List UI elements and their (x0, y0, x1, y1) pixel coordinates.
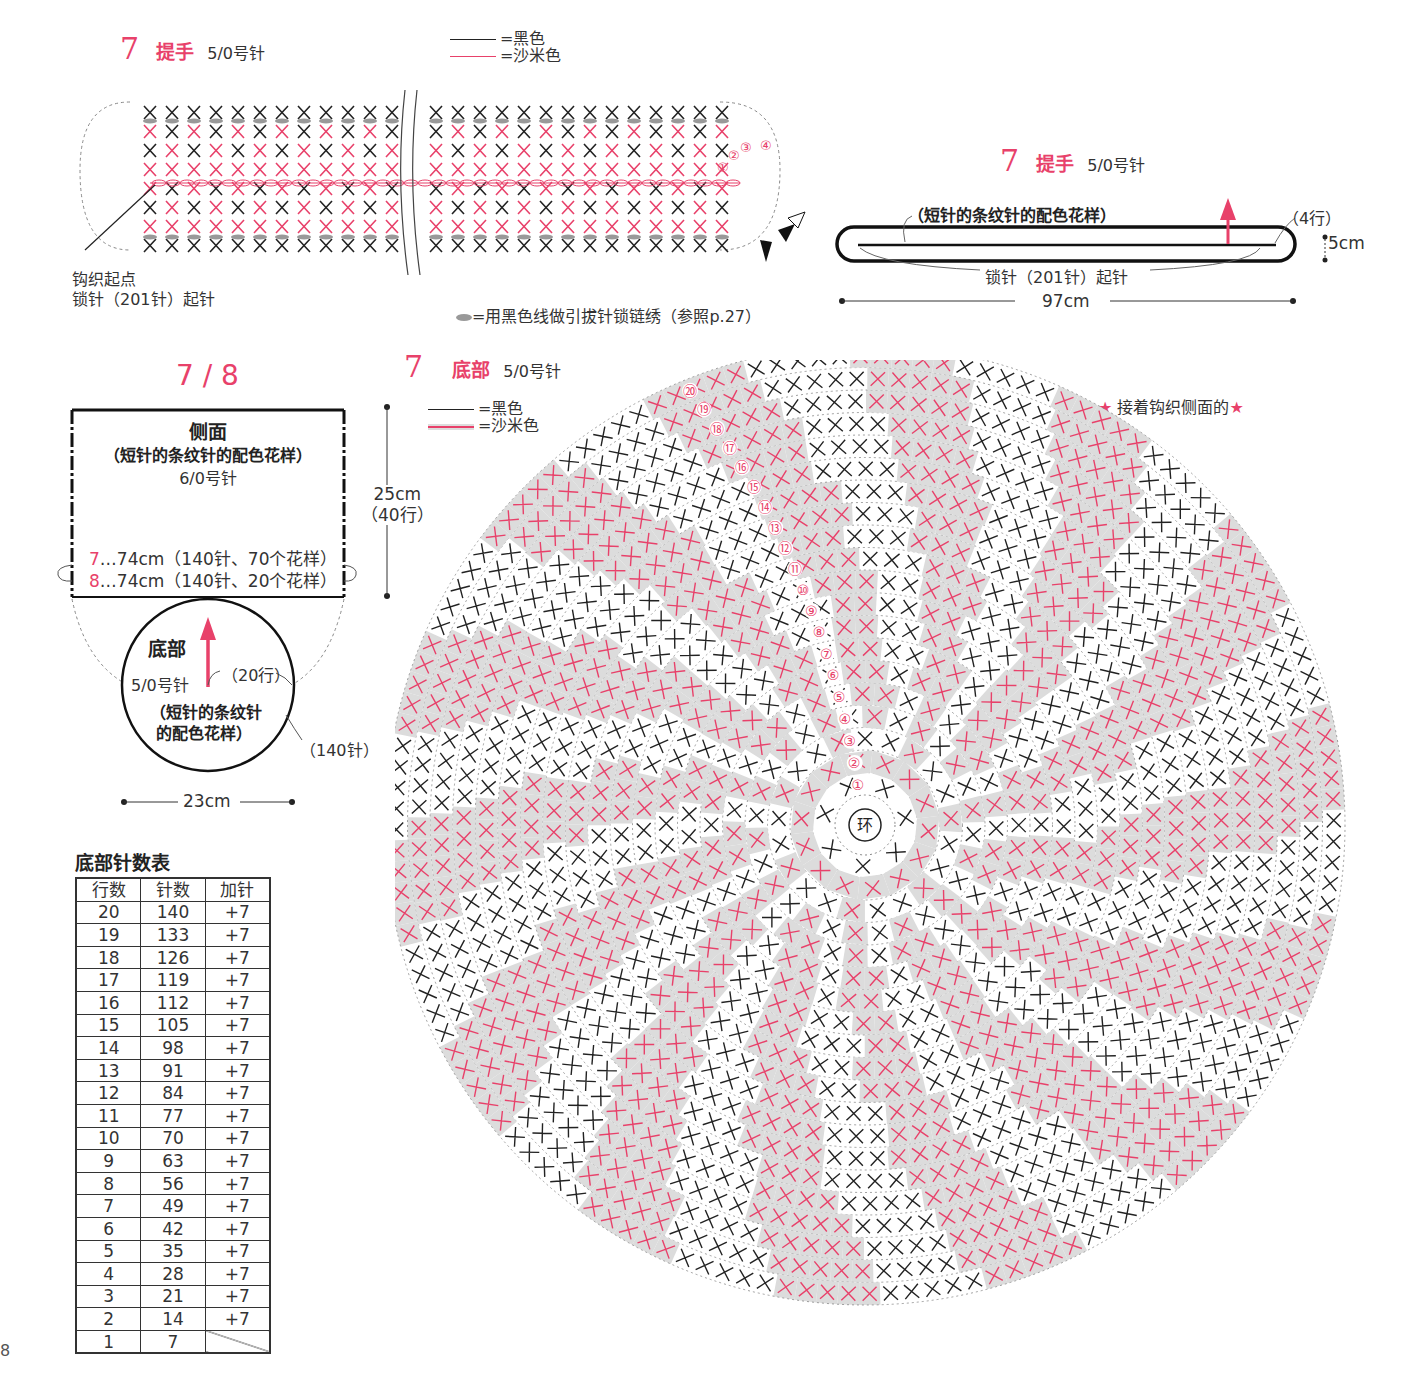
svg-text:⑨: ⑨ (805, 603, 818, 619)
table-row: 749+7 (76, 1195, 270, 1218)
svg-text:④: ④ (760, 138, 772, 153)
table-cell: 84 (141, 1082, 205, 1105)
bottom-pattern: （短针的条纹针 的配色花样） (150, 702, 262, 744)
side-schematic-number: 7 / 8 (176, 362, 239, 390)
table-cell: 2 (76, 1308, 141, 1331)
table-cell: 42 (141, 1217, 205, 1240)
table-cell: 140 (141, 901, 205, 924)
table-row: 321+7 (76, 1285, 270, 1308)
black-line-icon (450, 39, 496, 40)
table-row: 18126+7 (76, 946, 270, 969)
handle-rows-label: （4行） (1283, 205, 1341, 229)
foundation-chain-label: 锁针（201针）起针 (72, 290, 215, 310)
table-cell: +7 (205, 1285, 270, 1308)
legend-beige: =沙米色 (450, 47, 561, 64)
svg-text:⑤: ⑤ (833, 689, 846, 705)
table-row: 1070+7 (76, 1127, 270, 1150)
bottom-width: 23cm (183, 791, 231, 811)
table-row: 1498+7 (76, 1037, 270, 1060)
table-cell: 21 (141, 1285, 205, 1308)
page-number: 8 (0, 1341, 10, 1360)
table-cell: +7 (205, 1014, 270, 1037)
table-row: 856+7 (76, 1172, 270, 1195)
svg-text:⑰: ⑰ (723, 440, 737, 456)
table-row: 17119+7 (76, 969, 270, 992)
handle-chart-number: 7 (120, 31, 139, 66)
start-point-label: 钩织起点 (72, 270, 215, 290)
table-header: 行数 (76, 878, 141, 901)
table-cell: 3 (76, 1285, 141, 1308)
handle-chain-label: 锁针（201针）起针 (985, 264, 1128, 288)
table-cell: 119 (141, 969, 205, 992)
table-cell: +7 (205, 1217, 270, 1240)
table-cell: 112 (141, 991, 205, 1014)
table-row: 1177+7 (76, 1104, 270, 1127)
side-needle: 6/0号针 (72, 468, 344, 490)
table-row: 214+7 (76, 1308, 270, 1331)
table-cell: +7 (205, 1037, 270, 1060)
table-cell: 20 (76, 901, 141, 924)
pink-line-icon (450, 56, 496, 57)
handle-chart-heading: 7 提手 5/0号针 (120, 34, 265, 64)
table-cell: 9 (76, 1150, 141, 1173)
table-cell: 11 (76, 1104, 141, 1127)
handle-schematic-heading: 7 提手 5/0号针 (1000, 146, 1145, 176)
table-row: 17 (76, 1330, 270, 1353)
table-cell: 1 (76, 1330, 141, 1353)
table-cell: 70 (141, 1127, 205, 1150)
svg-text:环: 环 (857, 816, 873, 835)
table-cell: 15 (76, 1014, 141, 1037)
table-cell: +7 (205, 1150, 270, 1173)
table-cell: +7 (205, 1059, 270, 1082)
table-cell: 133 (141, 924, 205, 947)
svg-text:⑦: ⑦ (820, 646, 833, 662)
svg-text:⑲: ⑲ (697, 401, 711, 417)
svg-text:③: ③ (740, 140, 752, 155)
table-cell: +7 (205, 1308, 270, 1331)
svg-text:②: ② (728, 148, 740, 163)
handle-start-labels: 钩织起点 锁针（201针）起针 (72, 270, 215, 310)
handle-pattern-label: （短针的条纹针的配色花样） (908, 202, 1116, 226)
slip-chain-icon (456, 314, 472, 321)
table-cell: 28 (141, 1263, 205, 1286)
table-cell: +7 (205, 1172, 270, 1195)
table-row: 16112+7 (76, 991, 270, 1014)
legend-black: =黑色 (450, 30, 561, 47)
svg-text:⑮: ⑮ (747, 479, 761, 495)
table-cell: +7 (205, 1082, 270, 1105)
table-cell: 77 (141, 1104, 205, 1127)
table-cell: 126 (141, 946, 205, 969)
svg-text:⑭: ⑭ (758, 499, 772, 515)
table-cell: +7 (205, 991, 270, 1014)
table-cell (205, 1330, 270, 1353)
table-cell: 56 (141, 1172, 205, 1195)
handle-chart-title: 提手 (156, 41, 194, 63)
svg-text:⑩: ⑩ (797, 582, 810, 598)
side-title: 侧面 (72, 420, 344, 444)
table-cell: 49 (141, 1195, 205, 1218)
bottom-needle: 5/0号针 (131, 672, 189, 696)
handle-stitch-chart: ①②③④ (60, 90, 820, 290)
handle-chart-needle: 5/0号针 (207, 44, 265, 63)
svg-text:⑧: ⑧ (813, 624, 826, 640)
table-cell: 98 (141, 1037, 205, 1060)
svg-text:⑯: ⑯ (735, 459, 749, 475)
bottom-round-stitch-chart: 环①②③④⑤⑥⑦⑧⑨⑩⑪⑫⑬⑭⑮⑯⑰⑱⑲⑳ (395, 360, 1365, 1350)
svg-text:⑳: ⑳ (683, 383, 697, 399)
table-cell: +7 (205, 1195, 270, 1218)
handle-schematic-drawing (820, 180, 1380, 320)
table-cell: 5 (76, 1240, 141, 1263)
bottom-stitches: （140针） (300, 737, 379, 761)
svg-text:⑫: ⑫ (778, 540, 792, 556)
svg-text:③: ③ (843, 733, 856, 749)
table-row: 642+7 (76, 1217, 270, 1240)
table-cell: 10 (76, 1127, 141, 1150)
svg-text:⑬: ⑬ (768, 520, 782, 536)
table-cell: 17 (76, 969, 141, 992)
table-cell: 14 (76, 1037, 141, 1060)
handle-schematic-title: 提手 (1036, 153, 1074, 175)
table-cell: 4 (76, 1263, 141, 1286)
handle-height-label: 5cm (1328, 233, 1365, 253)
table-cell: +7 (205, 924, 270, 947)
svg-text:⑥: ⑥ (827, 667, 840, 683)
